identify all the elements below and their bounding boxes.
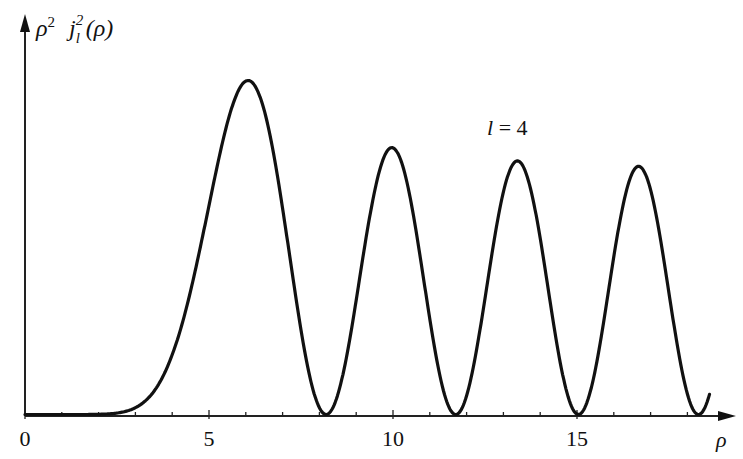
data-series-line (25, 81, 710, 415)
y-label-sup: 2 (76, 12, 84, 29)
y-label-j: j (69, 15, 76, 41)
annotation-value: = 4 (493, 115, 527, 140)
x-axis-label: ρ (716, 427, 727, 453)
y-label-rho: ρ (36, 15, 48, 41)
x-tick-label: 0 (20, 426, 31, 452)
y-label-arg: (ρ) (86, 15, 114, 41)
plot-canvas (0, 0, 743, 459)
x-tick-label: 5 (204, 426, 215, 452)
y-label-exp: 2 (48, 14, 56, 30)
y-axis-label: ρ2 j2l(ρ) (36, 14, 113, 42)
x-axis-arrow-icon (718, 411, 736, 421)
annotation-l-equals-4: l = 4 (487, 115, 528, 141)
y-axis-arrow-icon (20, 14, 30, 32)
x-tick-label: 10 (382, 426, 404, 452)
y-label-sub: l (76, 30, 80, 47)
x-tick-label: 15 (566, 426, 588, 452)
